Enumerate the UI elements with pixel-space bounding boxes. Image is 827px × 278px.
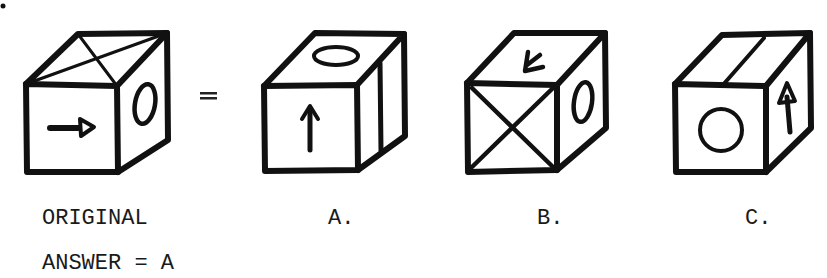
original-cube	[26, 33, 168, 172]
option-b-label: B.	[537, 208, 563, 230]
original-label: ORIGINAL	[42, 208, 148, 230]
oval-icon	[314, 47, 358, 65]
option-c-label: C.	[745, 208, 771, 230]
option-c-top-face	[675, 33, 810, 86]
option-b-right-face	[557, 33, 606, 170]
option-a-cube	[264, 33, 405, 171]
x-mark-icon	[472, 88, 553, 167]
original-right-face	[118, 33, 168, 172]
equals-sign	[200, 92, 217, 100]
arrow-up-head	[779, 83, 795, 103]
option-c-front-face	[675, 84, 766, 172]
diagonal-line-icon	[722, 38, 764, 86]
option-a-top-face	[264, 33, 404, 86]
oval-icon	[571, 81, 594, 123]
circle-icon	[700, 109, 742, 151]
option-a-label: A.	[328, 208, 354, 230]
option-b-cube	[467, 33, 606, 172]
option-c-cube	[675, 33, 811, 172]
oval-icon	[132, 83, 159, 126]
arrow-down-left-icon	[525, 52, 543, 71]
arrow-right-head	[80, 119, 94, 136]
vertical-line-icon	[380, 63, 381, 151]
answer-text: ANSWER = A	[42, 253, 174, 275]
cube-puzzle-figure: ORIGINAL A. B. C. ANSWER = A	[0, 0, 827, 278]
cube-drawings	[0, 0, 827, 278]
stray-dot	[1, 4, 6, 9]
